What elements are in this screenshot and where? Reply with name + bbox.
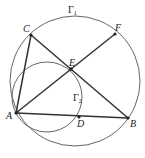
segment-ac [16,35,31,113]
label-gamma1: Γ1 [68,4,77,16]
label-d: D [76,118,85,129]
segment-ab [16,113,128,118]
label-a: A [5,110,13,121]
label-c: C [23,23,30,34]
point-c [29,33,32,36]
label-f: F [114,22,122,33]
label-gamma2: Γ2 [73,92,82,104]
segment-cb [31,35,128,118]
point-a [14,111,17,114]
label-e: E [68,57,75,68]
segment-af [16,34,115,113]
circle-gamma2 [12,62,82,132]
geometry-diagram: Γ1 Γ2 C F E A D B [0,0,145,158]
label-b: B [130,118,136,129]
